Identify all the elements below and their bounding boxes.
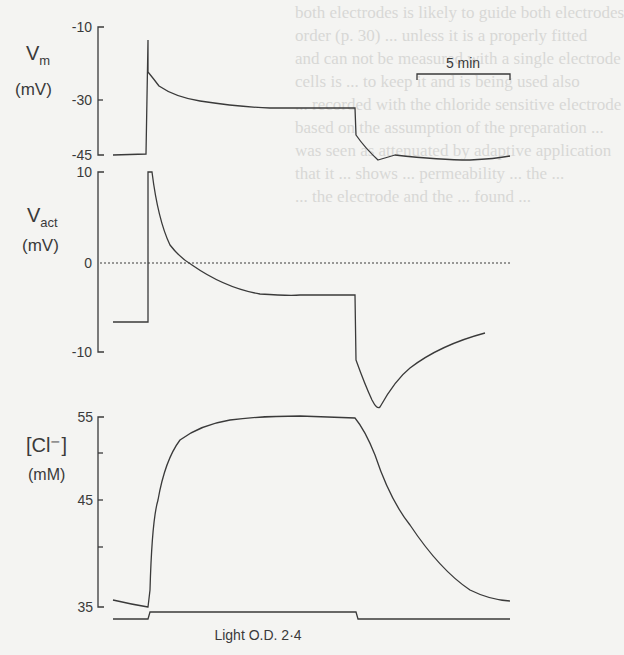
cl-axis-unit: (mM) (28, 466, 65, 483)
vact-axis-label: Vact (27, 204, 58, 230)
cl-tick-label: 55 (77, 409, 93, 425)
vm-y-axis (98, 27, 104, 155)
cl-trace (113, 416, 510, 607)
vact-y-axis (98, 172, 104, 352)
vact-axis-unit: (mV) (22, 236, 59, 255)
scale-bar: 5 min (417, 55, 510, 80)
light-label: Light O.D. 2·4 (214, 627, 301, 643)
light-stimulus-trace (113, 612, 510, 619)
cl-axis-label: [Cl⁻] (26, 434, 67, 456)
scale-bar-label: 5 min (446, 55, 480, 71)
cl-tick-label: 45 (77, 492, 93, 508)
vm-tick-label: -45 (72, 147, 92, 163)
vm-panel: -10 -30 -45 Vm (mV) 5 min (15, 19, 510, 163)
vm-tick-label: -10 (72, 19, 92, 35)
vm-tick-label: -30 (72, 92, 92, 108)
vm-axis-unit: (mV) (15, 80, 52, 99)
cl-tick-label: 35 (77, 599, 93, 615)
vact-tick-label: 10 (76, 164, 92, 180)
vact-trace (113, 172, 485, 408)
vact-tick-label: -10 (72, 344, 92, 360)
cl-panel: 55 45 35 [Cl⁻] (mM) Light O.D. 2·4 (26, 409, 510, 643)
cl-y-axis (98, 417, 104, 607)
vm-axis-label: Vm (26, 42, 50, 68)
vact-tick-label: 0 (84, 255, 92, 271)
vact-panel: 10 0 -10 Vact (mV) (22, 164, 512, 408)
